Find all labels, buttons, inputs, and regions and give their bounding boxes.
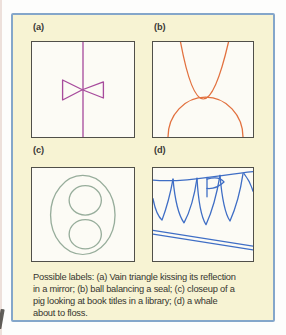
panel-b — [152, 41, 254, 138]
seal-ball-drawing — [153, 42, 253, 137]
panel-d — [152, 167, 254, 262]
scan-edge-mark — [0, 309, 5, 329]
floss-line-upper — [153, 230, 253, 246]
top-circle — [69, 186, 101, 215]
panel-a-label: (a) — [33, 22, 44, 32]
scan-edge-tint — [0, 0, 2, 335]
panel-c — [31, 167, 135, 262]
panel-a — [31, 41, 135, 138]
right-triangle — [82, 82, 103, 98]
tooth-1 — [153, 179, 173, 220]
bowtie-mirror-drawing — [32, 42, 134, 137]
caption-line-3: pig looking at book titles in a library;… — [33, 295, 267, 307]
figure-box: (a) (b) (c) (d) — [11, 13, 275, 322]
whale-teeth-floss-drawing — [153, 168, 253, 261]
gum-line — [153, 172, 253, 181]
parabola-curve — [181, 42, 229, 99]
caption-line-4: about to floss. — [33, 307, 267, 319]
panel-d-label: (d) — [154, 145, 165, 155]
scanned-page: (a) (b) (c) (d) — [0, 0, 286, 335]
left-triangle — [63, 80, 83, 100]
tooth-3 — [197, 175, 220, 224]
tooth-2 — [173, 178, 197, 223]
tooth-5-partial — [244, 174, 253, 192]
pig-snout-drawing — [32, 168, 134, 261]
dome-curve — [168, 97, 243, 137]
panel-b-label: (b) — [154, 22, 165, 32]
panel-c-label: (c) — [33, 145, 44, 155]
bottom-circle — [69, 220, 101, 249]
caption-line-2: in a mirror; (b) ball balancing a seal; … — [33, 283, 267, 295]
figure-caption: Possible labels: (a) Vain triangle kissi… — [33, 271, 267, 319]
floss-line-lower — [153, 234, 253, 250]
caption-line-1: Possible labels: (a) Vain triangle kissi… — [33, 271, 267, 283]
